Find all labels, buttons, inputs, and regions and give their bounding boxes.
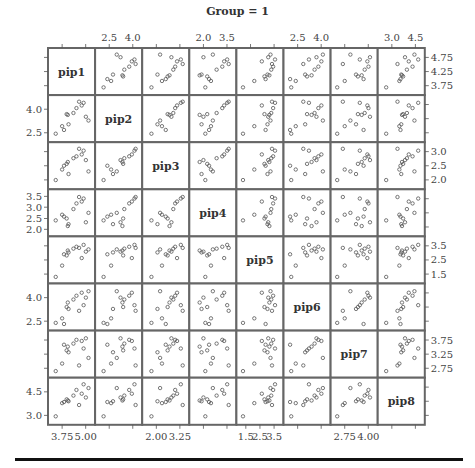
scatter-panel [48, 95, 95, 142]
scatter-panel [189, 236, 236, 283]
diagonal-panel: pip6 [284, 284, 331, 331]
scatter-panel [189, 284, 236, 331]
scatter-panel [189, 48, 236, 95]
scatter-panel [284, 236, 331, 283]
scatter-panel [142, 236, 189, 283]
scatter-panel [236, 284, 283, 331]
scatter-panel [236, 48, 283, 95]
variable-label: pip1 [58, 66, 85, 79]
scatter-panel [189, 95, 236, 142]
variable-label: pip2 [105, 113, 132, 126]
tick-label: 3.0 [431, 146, 447, 157]
tick-label: 4.0 [26, 292, 42, 303]
tick-label: 3.5 [219, 32, 235, 43]
tick-label: 3.0 [384, 32, 400, 43]
tick-label: 3.5 [431, 240, 447, 251]
scatter-panel [95, 284, 142, 331]
tick-label: 2.5 [26, 316, 42, 327]
scatter-panel [236, 95, 283, 142]
tick-label: 2.0 [195, 32, 211, 43]
diagonal-panel: pip8 [378, 378, 425, 425]
scatter-panel [378, 236, 425, 283]
scatter-panel [236, 189, 283, 236]
tick-label: 3.0 [26, 202, 42, 213]
scatter-panel [189, 142, 236, 189]
scatter-panel [378, 95, 425, 142]
tick-label: 2.5 [431, 254, 447, 265]
tick-label: 4.0 [26, 104, 42, 115]
diagonal-panel: pip3 [142, 142, 189, 189]
tick-label: 4.75 [431, 52, 453, 63]
tick-label: 4.0 [313, 32, 329, 43]
scatter-panel [284, 95, 331, 142]
tick-label: 3.25 [431, 349, 453, 360]
scatter-panel [284, 142, 331, 189]
variable-label: pip6 [293, 301, 321, 314]
scatter-panel [48, 142, 95, 189]
scatter-panel [378, 142, 425, 189]
variable-label: pip7 [341, 348, 368, 361]
scatter-panel [48, 378, 95, 425]
scatter-panel [284, 378, 331, 425]
scatter-panel [284, 331, 331, 378]
scatter-panel [331, 48, 378, 95]
scatter-panel [236, 378, 283, 425]
scatter-panel [95, 331, 142, 378]
scatter-panel [331, 284, 378, 331]
variable-label: pip4 [199, 207, 227, 220]
tick-label: 4.00 [357, 431, 379, 442]
scatter-panel [95, 378, 142, 425]
diagonal-panel: pip7 [331, 331, 378, 378]
tick-label: 3.75 [51, 431, 73, 442]
scatter-panel [331, 142, 378, 189]
variable-label: pip8 [388, 395, 416, 408]
tick-label: 2.75 [334, 431, 356, 442]
scatter-panel [142, 189, 189, 236]
scatter-panel [142, 378, 189, 425]
tick-label: 3.0 [26, 410, 42, 421]
scatter-panel [142, 284, 189, 331]
scatter-panel [331, 189, 378, 236]
tick-label: 3.5 [26, 191, 42, 202]
scatter-panel [48, 189, 95, 236]
tick-label: 5.00 [75, 431, 97, 442]
scatter-panel [95, 236, 142, 283]
tick-label: 4.0 [125, 32, 141, 43]
bottom-rule [15, 458, 463, 461]
scatter-panel [95, 48, 142, 95]
scatter-panel [378, 331, 425, 378]
scatter-panel [378, 48, 425, 95]
tick-label: 2.0 [431, 174, 447, 185]
tick-label: 2.5 [431, 160, 447, 171]
scatter-panel [284, 48, 331, 95]
tick-label: 2.5 [290, 32, 306, 43]
scatter-panel [236, 142, 283, 189]
diagonal-panel: pip2 [95, 95, 142, 142]
scatter-panel [48, 284, 95, 331]
scatter-panel [95, 142, 142, 189]
scatter-panel [189, 378, 236, 425]
scatter-panel [48, 236, 95, 283]
diagonal-panel: pip5 [236, 236, 283, 283]
tick-label: 2.0 [26, 224, 42, 235]
variable-label: pip3 [152, 160, 179, 173]
tick-label: 2.5 [101, 32, 117, 43]
tick-label: 4.5 [26, 386, 42, 397]
scatter-panel [378, 284, 425, 331]
tick-label: 2.5 [26, 213, 42, 224]
scatter-panel [142, 48, 189, 95]
scatter-panel [48, 331, 95, 378]
tick-label: 2.75 [431, 363, 453, 374]
tick-label: 1.5 [431, 269, 447, 280]
scatter-panel [142, 95, 189, 142]
diagonal-panel: pip1 [48, 48, 95, 95]
tick-label: 3.25 [169, 431, 191, 442]
scatter-panel [331, 236, 378, 283]
scatter-panel [378, 189, 425, 236]
scatter-panel [142, 331, 189, 378]
scatter-panel [284, 189, 331, 236]
scatter-panel [331, 95, 378, 142]
tick-label: 3.75 [431, 80, 453, 91]
diagonal-panel: pip4 [189, 189, 236, 236]
tick-label: 2.5 [26, 127, 42, 138]
